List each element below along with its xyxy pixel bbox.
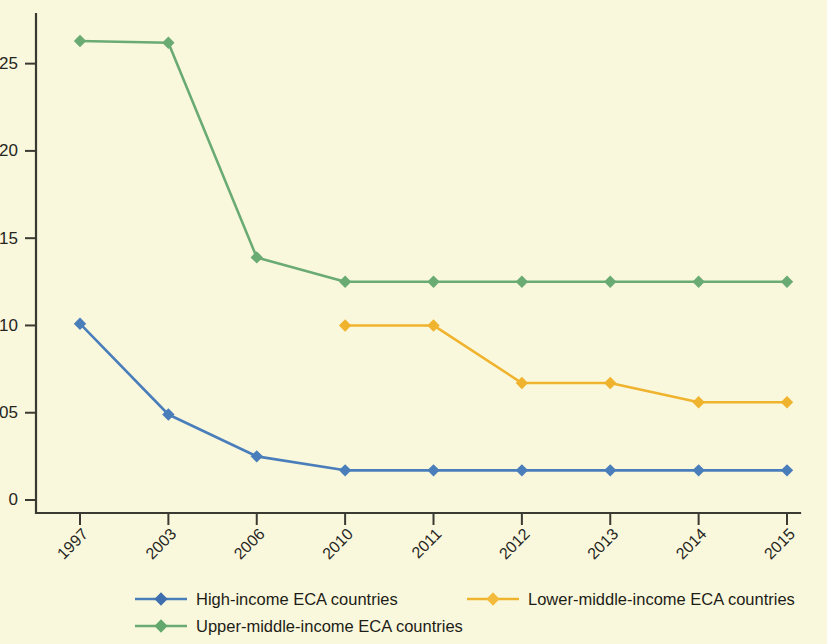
y-tick-label: 0.15: [0, 229, 18, 248]
data-point-marker: [427, 276, 439, 288]
y-axis-ticks: [25, 64, 36, 500]
legend-item-lower-middle-income: Lower-middle-income ECA countries: [465, 587, 795, 611]
legend-marker-high-income: [133, 591, 189, 607]
data-point-marker: [604, 464, 616, 476]
data-point-marker: [692, 464, 704, 476]
data-point-marker: [516, 276, 528, 288]
x-axis-tick-labels: 199720032006201020112012201320142015: [54, 525, 798, 562]
axis-lines: [36, 14, 800, 513]
data-series-layer: [74, 35, 793, 477]
chart-legend: High-income ECA countries Lower-middle-i…: [0, 586, 827, 644]
series-high-income-eca-countries: [74, 318, 793, 477]
x-tick-label: 2003: [142, 525, 179, 562]
data-point-marker: [339, 276, 351, 288]
data-point-marker: [427, 464, 439, 476]
data-point-marker: [339, 464, 351, 476]
data-point-marker: [781, 276, 793, 288]
x-tick-label: 2012: [496, 525, 533, 562]
x-tick-label: 2015: [761, 525, 798, 562]
data-point-marker: [692, 396, 704, 408]
data-point-marker: [251, 450, 263, 462]
y-tick-label: 0: [9, 490, 18, 509]
data-point-marker: [162, 36, 174, 48]
x-tick-label: 2011: [408, 525, 444, 561]
data-point-marker: [604, 276, 616, 288]
chart-plot-area: 00.050.100.150.200.25 199720032006201020…: [0, 0, 827, 586]
series-line: [80, 324, 787, 471]
x-tick-label: 2013: [584, 525, 621, 562]
y-tick-label: 0.10: [0, 316, 18, 335]
series-line: [80, 41, 787, 282]
y-tick-label: 0.25: [0, 54, 18, 73]
x-axis-ticks: [80, 513, 787, 525]
legend-marker-lower-middle-income: [465, 591, 521, 607]
x-tick-label: 2010: [319, 525, 356, 562]
line-chart: 00.050.100.150.200.25 199720032006201020…: [0, 0, 827, 644]
legend-label-lower-middle-income: Lower-middle-income ECA countries: [528, 591, 795, 608]
data-point-marker: [781, 464, 793, 476]
legend-label-upper-middle-income: Upper-middle-income ECA countries: [196, 618, 463, 635]
legend-item-high-income: High-income ECA countries: [133, 587, 398, 611]
x-tick-label: 2014: [673, 525, 710, 562]
data-point-marker: [516, 464, 528, 476]
series-line: [345, 325, 787, 402]
legend-marker-upper-middle-income: [133, 618, 189, 634]
data-point-marker: [339, 319, 351, 331]
data-point-marker: [251, 251, 263, 263]
data-point-marker: [781, 396, 793, 408]
data-point-marker: [74, 35, 86, 47]
series-lower-middle-income-eca-countries: [339, 319, 793, 408]
data-point-marker: [604, 377, 616, 389]
y-axis-tick-labels: 00.050.100.150.200.25: [0, 54, 18, 509]
legend-label-high-income: High-income ECA countries: [196, 591, 398, 608]
axes: [25, 14, 800, 525]
x-tick-label: 2006: [231, 525, 268, 562]
x-tick-label: 1997: [54, 525, 91, 562]
legend-item-upper-middle-income: Upper-middle-income ECA countries: [133, 614, 463, 638]
data-point-marker: [692, 276, 704, 288]
y-tick-label: 0.05: [0, 403, 18, 422]
series-upper-middle-income-eca-countries: [74, 35, 793, 288]
y-tick-label: 0.20: [0, 141, 18, 160]
